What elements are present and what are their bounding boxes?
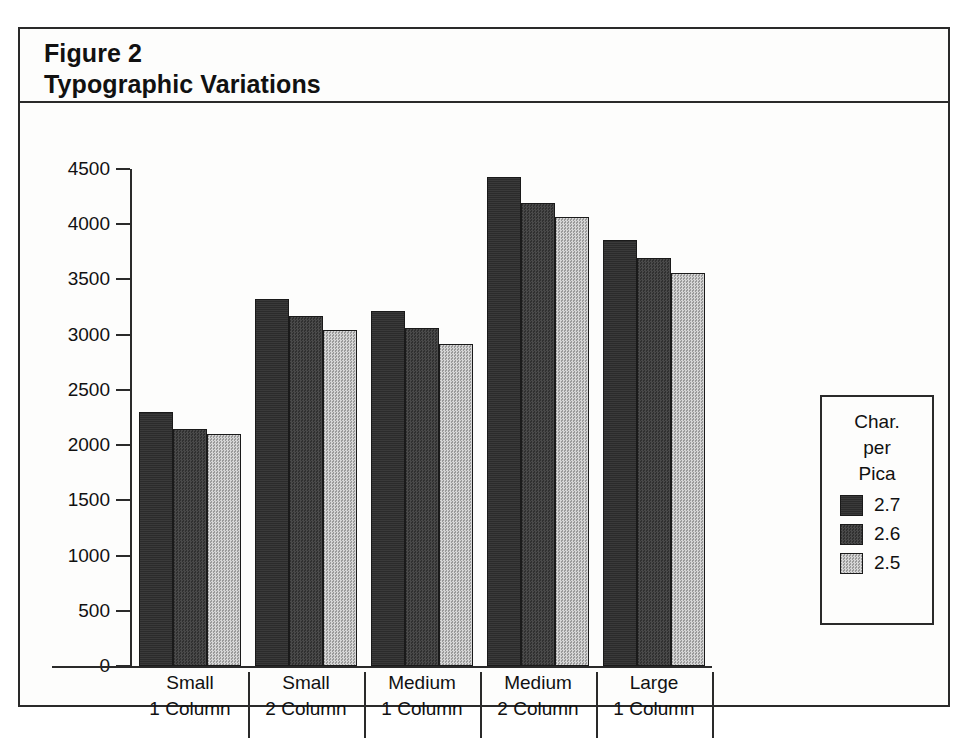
bar <box>207 434 241 666</box>
figure-title-line-2: Typographic Variations <box>44 69 948 100</box>
y-axis-tick-label: 2000 <box>68 434 110 456</box>
bar <box>603 240 637 666</box>
figure-title-band: Figure 2 Typographic Variations <box>20 29 948 103</box>
chart-legend: Char.perPica 2.72.62.5 <box>820 395 934 625</box>
legend-item[interactable]: 2.6 <box>840 523 932 545</box>
y-axis-tick-label: 2500 <box>68 379 110 401</box>
figure-frame: Figure 2 Typographic Variations 05001000… <box>18 27 950 707</box>
bar <box>637 258 671 666</box>
legend-item[interactable]: 2.7 <box>840 494 932 516</box>
bar-group <box>255 169 357 666</box>
x-axis-category-line: 1 Column <box>364 696 480 722</box>
y-axis-tick-mark <box>116 555 130 557</box>
y-axis-tick-label: 1000 <box>68 545 110 567</box>
x-axis-category-line: Small <box>132 670 248 696</box>
x-axis-category-label: Large1 Column <box>596 670 712 722</box>
x-axis-category-line: 1 Column <box>132 696 248 722</box>
y-axis-tick-mark <box>116 610 130 612</box>
x-axis-category-line: Small <box>248 670 364 696</box>
bar-group <box>139 169 241 666</box>
legend-items: 2.72.62.5 <box>822 494 932 574</box>
x-axis-group-separator <box>480 672 482 738</box>
bar <box>289 316 323 666</box>
bar <box>671 273 705 666</box>
y-axis-tick-mark <box>116 334 130 336</box>
legend-item-label: 2.6 <box>874 523 900 545</box>
y-axis-tick-label: 4000 <box>68 213 110 235</box>
legend-title-line: Char. <box>822 409 932 435</box>
plot-area: 050010001500200025003000350040004500 Sma… <box>20 103 948 705</box>
x-axis-category-line: 2 Column <box>480 696 596 722</box>
bar <box>139 412 173 666</box>
bar <box>521 203 555 666</box>
bar <box>371 311 405 666</box>
bar-group <box>371 169 473 666</box>
x-axis-category-line: Large <box>596 670 712 696</box>
legend-title-line: per <box>822 435 932 461</box>
y-axis-tick-label: 3000 <box>68 324 110 346</box>
y-axis-tick-mark <box>116 444 130 446</box>
x-axis-category-line: 1 Column <box>596 696 712 722</box>
bars-layer <box>132 169 712 666</box>
x-axis-group-separator <box>712 672 714 738</box>
x-axis-group-separator <box>248 672 250 738</box>
bar <box>255 299 289 666</box>
x-axis-group-separator <box>364 672 366 738</box>
bar <box>439 344 473 666</box>
y-axis-tick-mark <box>116 223 130 225</box>
y-axis-tick-mark <box>116 499 130 501</box>
bar-group <box>487 169 589 666</box>
x-axis-group-separator <box>596 672 598 738</box>
legend-swatch <box>840 495 863 516</box>
bar <box>555 217 589 667</box>
legend-title-line: Pica <box>822 461 932 487</box>
x-axis-category-label: Small1 Column <box>132 670 248 722</box>
y-axis-tick-mark <box>116 278 130 280</box>
legend-title: Char.perPica <box>822 409 932 487</box>
y-axis-tick-label: 1500 <box>68 489 110 511</box>
x-axis-category-line: Medium <box>364 670 480 696</box>
x-axis-category-line: 2 Column <box>248 696 364 722</box>
x-axis-category-label: Medium1 Column <box>364 670 480 722</box>
y-axis-tick-label: 500 <box>78 600 110 622</box>
legend-swatch <box>840 524 863 545</box>
bar <box>487 177 521 666</box>
legend-swatch <box>840 553 863 574</box>
x-axis-category-label: Medium2 Column <box>480 670 596 722</box>
y-axis-tick-mark <box>116 389 130 391</box>
figure-title-line-1: Figure 2 <box>44 38 948 69</box>
y-axis-tick-label: 3500 <box>68 268 110 290</box>
x-axis-category-line: Medium <box>480 670 596 696</box>
y-axis-tick-mark <box>116 168 130 170</box>
bar <box>405 328 439 666</box>
y-axis-tick-label: 4500 <box>68 158 110 180</box>
x-axis-line <box>52 666 712 668</box>
bar <box>173 429 207 666</box>
x-axis-labels: Small1 ColumnSmall2 ColumnMedium1 Column… <box>132 670 712 742</box>
legend-item-label: 2.5 <box>874 552 900 574</box>
legend-item-label: 2.7 <box>874 494 900 516</box>
bar-group <box>603 169 705 666</box>
x-axis-category-label: Small2 Column <box>248 670 364 722</box>
bar <box>323 330 357 666</box>
legend-item[interactable]: 2.5 <box>840 552 932 574</box>
